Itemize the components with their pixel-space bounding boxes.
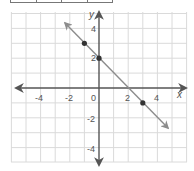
x-tick-label: 2 bbox=[125, 93, 130, 103]
y-tick-label: 2 bbox=[91, 53, 96, 63]
point-0-2 bbox=[96, 56, 101, 61]
x-axis-label: x bbox=[176, 89, 183, 100]
plotted-line bbox=[65, 23, 168, 128]
x-tick-label: -4 bbox=[35, 93, 43, 103]
x-tick-label: 4 bbox=[154, 93, 159, 103]
y-tick-label: -2 bbox=[87, 114, 95, 124]
x-tick-label: 0 bbox=[91, 93, 96, 103]
y-axis-label: y bbox=[88, 9, 95, 20]
x-tick-label: -2 bbox=[65, 93, 73, 103]
coordinate-plane: y x -4 -2 0 2 4 4 2 -2 -4 bbox=[0, 0, 194, 171]
point-3-neg1 bbox=[140, 100, 145, 105]
y-tick-label: 4 bbox=[91, 24, 96, 34]
y-tick-label: -4 bbox=[87, 144, 95, 154]
point-neg1-3 bbox=[82, 41, 87, 46]
